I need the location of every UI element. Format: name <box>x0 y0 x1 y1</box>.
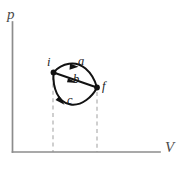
state-label-i: i <box>47 56 50 69</box>
pv-diagram-canvas <box>0 0 185 169</box>
pressure-axis-label: p <box>7 7 15 22</box>
volume-axis-label: V <box>165 140 174 155</box>
state-label-f: f <box>102 80 105 93</box>
process-label-c: c <box>67 94 73 107</box>
state-node-f <box>94 85 100 91</box>
pv-diagram-figure: p V i f a b c <box>0 0 185 169</box>
process-label-a: a <box>78 55 84 68</box>
process-label-b: b <box>73 73 79 86</box>
state-node-i <box>51 70 57 76</box>
